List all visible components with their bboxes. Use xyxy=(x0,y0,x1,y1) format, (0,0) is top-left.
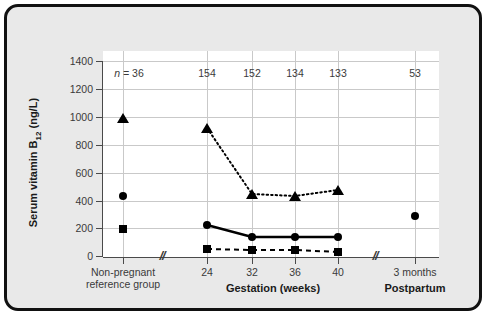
y-axis-title-subscript: 12 xyxy=(34,132,43,141)
data-point-circle-nonpregnant[interactable] xyxy=(119,192,127,200)
data-point-circle-week36[interactable] xyxy=(291,233,299,241)
data-point-circle-3months[interactable] xyxy=(411,212,419,220)
series-square-line xyxy=(207,249,338,252)
y-tick-label-1400: 1400 xyxy=(70,55,93,67)
data-point-square-week36[interactable] xyxy=(291,246,299,254)
x-group-title-postpartum: Postpartum xyxy=(384,282,445,294)
data-point-square-week24[interactable] xyxy=(203,245,211,253)
data-point-circle-week40[interactable] xyxy=(334,233,342,241)
x-axis-break-left: // xyxy=(159,248,164,263)
x-tick-3months xyxy=(415,258,416,264)
y-tick-label-1200: 1200 xyxy=(70,83,93,95)
x-label-nonpregnant-line1: Non-pregnant xyxy=(86,266,160,278)
sample-size-prefix: n = xyxy=(114,67,132,79)
data-point-circle-week24[interactable] xyxy=(203,221,211,229)
data-point-triangle-week32[interactable] xyxy=(246,189,258,199)
data-point-triangle-nonpregnant[interactable] xyxy=(117,113,129,123)
x-tick-week24 xyxy=(207,258,208,264)
y-tick-label-800: 800 xyxy=(75,139,93,151)
x-label-week24: 24 xyxy=(201,266,213,278)
y-tick-label-600: 600 xyxy=(75,167,93,179)
x-label-week32: 32 xyxy=(246,266,258,278)
series-triangle-line xyxy=(207,128,338,196)
y-tick-label-1000: 1000 xyxy=(70,111,93,123)
y-tick-label-0: 0 xyxy=(87,250,93,262)
y-axis-title: Serum vitamin B12 (ng/L) xyxy=(27,73,42,253)
data-point-triangle-week36[interactable] xyxy=(289,191,301,201)
data-point-square-nonpregnant[interactable] xyxy=(119,225,127,233)
y-tick-label-400: 400 xyxy=(75,195,93,207)
sample-size-nonpregnant: n = 36 xyxy=(114,67,144,79)
x-label-nonpregnant-line2: reference group xyxy=(86,278,160,290)
figure-panel: Serum vitamin B12 (ng/L) 1400 1200 1000 … xyxy=(4,4,482,311)
y-axis-title-unit: (ng/L) xyxy=(27,98,39,132)
data-point-square-week32[interactable] xyxy=(248,246,256,254)
x-label-nonpregnant: Non-pregnant reference group xyxy=(86,266,160,290)
data-point-circle-week32[interactable] xyxy=(248,233,256,241)
sample-size-value-nonpregnant: 36 xyxy=(132,67,144,79)
x-tick-week32 xyxy=(252,258,253,264)
sample-size-3months: 53 xyxy=(409,67,421,79)
series-circle-line xyxy=(207,225,338,237)
sample-size-week24: 154 xyxy=(198,67,216,79)
data-point-triangle-week40[interactable] xyxy=(332,185,344,195)
x-axis-break-right: // xyxy=(372,248,377,263)
sample-size-week36: 134 xyxy=(286,67,304,79)
x-label-week40: 40 xyxy=(332,266,344,278)
x-tick-week36 xyxy=(295,258,296,264)
data-point-triangle-week24[interactable] xyxy=(201,123,213,133)
sample-size-week40: 133 xyxy=(329,67,347,79)
x-tick-nonpregnant xyxy=(123,258,124,264)
y-axis-title-main: Serum vitamin B xyxy=(27,140,39,227)
x-group-title-gestation: Gestation (weeks) xyxy=(226,282,320,294)
x-tick-week40 xyxy=(338,258,339,264)
x-label-week36: 36 xyxy=(289,266,301,278)
y-tick-label-200: 200 xyxy=(75,222,93,234)
plot-area xyxy=(103,51,439,257)
sample-size-week32: 152 xyxy=(243,67,261,79)
x-label-3months: 3 months xyxy=(393,266,436,278)
series-lines xyxy=(103,51,439,257)
data-point-square-week40[interactable] xyxy=(334,248,342,256)
